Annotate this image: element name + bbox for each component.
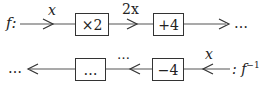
add-4-box: +4 [153,13,184,36]
function-label-f-inverse: : f−1 [232,61,260,76]
multiply-2-box: ×2 [75,13,109,36]
mid-label-2x: 2x [122,2,139,16]
mid-label-ellipsis: … [117,48,130,61]
unknown-box: … [75,58,106,81]
input-label-x: x [205,47,213,61]
subtract-4-box: −4 [152,58,184,81]
function-label-f: f: [6,16,17,31]
input-label-x: x [48,3,56,17]
trailing-ellipsis: … [234,16,248,30]
leading-ellipsis: … [8,61,22,75]
